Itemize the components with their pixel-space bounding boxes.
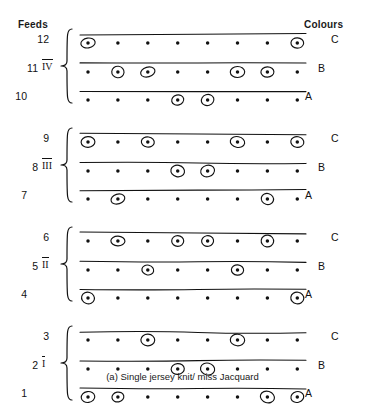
needle-row-feed-8 xyxy=(78,156,306,176)
feed-number-5: 5 xyxy=(16,260,38,272)
group-brace-I xyxy=(60,325,74,401)
figure-caption: (a) Single jersey knit/ miss Jacquard xyxy=(0,371,365,382)
needle-row-feed-1 xyxy=(78,382,306,402)
needle-row-feed-11 xyxy=(78,57,306,77)
feed-number-12: 12 xyxy=(27,33,49,45)
feed-number-3: 3 xyxy=(27,330,49,342)
group-brace-III xyxy=(60,127,74,203)
group-roman-numeral-III: III xyxy=(42,158,52,172)
colour-label-feed-5: B xyxy=(318,260,325,272)
group-roman-numeral-I: I xyxy=(42,356,45,370)
feed-number-4: 4 xyxy=(5,288,27,300)
feeds-header: Feeds xyxy=(18,19,48,30)
feed-number-8: 8 xyxy=(16,161,38,173)
needle-row-feed-12 xyxy=(78,28,306,48)
colour-label-feed-12: C xyxy=(331,33,339,45)
colour-label-feed-2: B xyxy=(318,359,325,371)
feed-number-1: 1 xyxy=(5,387,27,399)
feed-number-9: 9 xyxy=(27,132,49,144)
group-roman-numeral-II: II xyxy=(42,257,49,271)
colour-label-feed-8: B xyxy=(318,161,325,173)
group-brace-II xyxy=(60,226,74,302)
colour-label-feed-9: C xyxy=(331,132,339,144)
feed-number-11: 11 xyxy=(16,62,38,74)
feed-number-6: 6 xyxy=(27,231,49,243)
needle-row-feed-10 xyxy=(78,85,306,105)
colour-label-feed-6: C xyxy=(331,231,339,243)
feed-number-10: 10 xyxy=(5,90,27,102)
colour-label-feed-3: C xyxy=(331,330,339,342)
needle-row-feed-5 xyxy=(78,255,306,275)
group-brace-IV xyxy=(60,28,74,104)
group-roman-numeral-IV: IV xyxy=(42,59,53,73)
feed-number-7: 7 xyxy=(5,189,27,201)
needle-row-feed-9 xyxy=(78,127,306,147)
colour-label-feed-11: B xyxy=(318,62,325,74)
needle-row-feed-7 xyxy=(78,184,306,204)
needle-row-feed-6 xyxy=(78,226,306,246)
needle-row-feed-3 xyxy=(78,325,306,345)
feed-number-2: 2 xyxy=(16,359,38,371)
needle-row-feed-4 xyxy=(78,283,306,303)
